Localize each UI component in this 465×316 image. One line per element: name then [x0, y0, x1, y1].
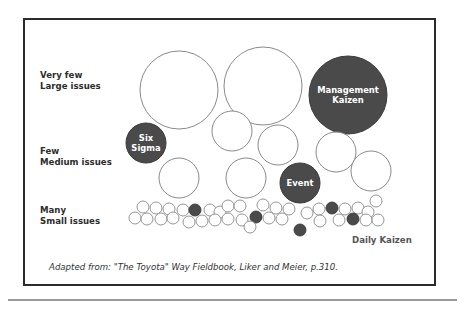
- bubble-label: Event: [287, 178, 314, 188]
- bubble-label: Sigma: [131, 143, 160, 153]
- bubble-small: [360, 214, 372, 226]
- bubble-small-filled: [326, 202, 338, 214]
- bubble-small-filled: [189, 204, 201, 216]
- bubble-small: [177, 204, 189, 216]
- bubble-six-sigma: SixSigma: [126, 123, 166, 163]
- bubble-small: [301, 207, 313, 219]
- bubble-small: [222, 200, 234, 212]
- bubble-small: [196, 215, 208, 227]
- bubble-small: [313, 203, 325, 215]
- bubble-small: [155, 213, 167, 225]
- bubble-label: Management: [317, 85, 379, 95]
- diagram-stage: Very few Large issues Few Medium issues …: [0, 0, 465, 316]
- bubble-small-filled: [347, 213, 359, 225]
- bubble-medium: [226, 158, 266, 198]
- bubble-medium: [258, 125, 298, 165]
- bubble-small: [129, 212, 141, 224]
- bubble-small: [314, 215, 326, 227]
- bubble-small: [263, 212, 275, 224]
- bubble-small: [339, 203, 351, 215]
- bubble-small-filled: [294, 224, 306, 236]
- bubble-small: [209, 214, 221, 226]
- bubble-large: [140, 51, 218, 129]
- bubble-small: [234, 200, 246, 212]
- bubble-small: [276, 213, 288, 225]
- bubble-medium: [159, 158, 199, 198]
- source-caption: Adapted from: "The Toyota" Way Fieldbook…: [49, 262, 338, 272]
- bubble-small: [183, 216, 195, 228]
- bubble-event: Event: [280, 163, 320, 203]
- bubble-small: [257, 199, 269, 211]
- bubble-medium: [212, 111, 252, 151]
- bubble-management-kaizen: ManagementKaizen: [309, 56, 387, 134]
- bubble-small: [370, 195, 382, 207]
- bubble-small: [137, 201, 149, 213]
- bubble-medium: [316, 132, 356, 172]
- bubble-small: [150, 202, 162, 214]
- bubble-small: [167, 212, 179, 224]
- daily-kaizen-label: Daily Kaizen: [352, 235, 412, 245]
- bottom-divider: [8, 299, 457, 301]
- bubble-label: Kaizen: [332, 95, 364, 105]
- bubble-medium: [351, 151, 391, 191]
- bubble-small: [244, 221, 256, 233]
- bubble-small: [222, 213, 234, 225]
- bubble-small: [333, 214, 345, 226]
- bubble-small: [141, 213, 153, 225]
- bubble-label: Six: [139, 133, 154, 143]
- bubble-small: [372, 214, 384, 226]
